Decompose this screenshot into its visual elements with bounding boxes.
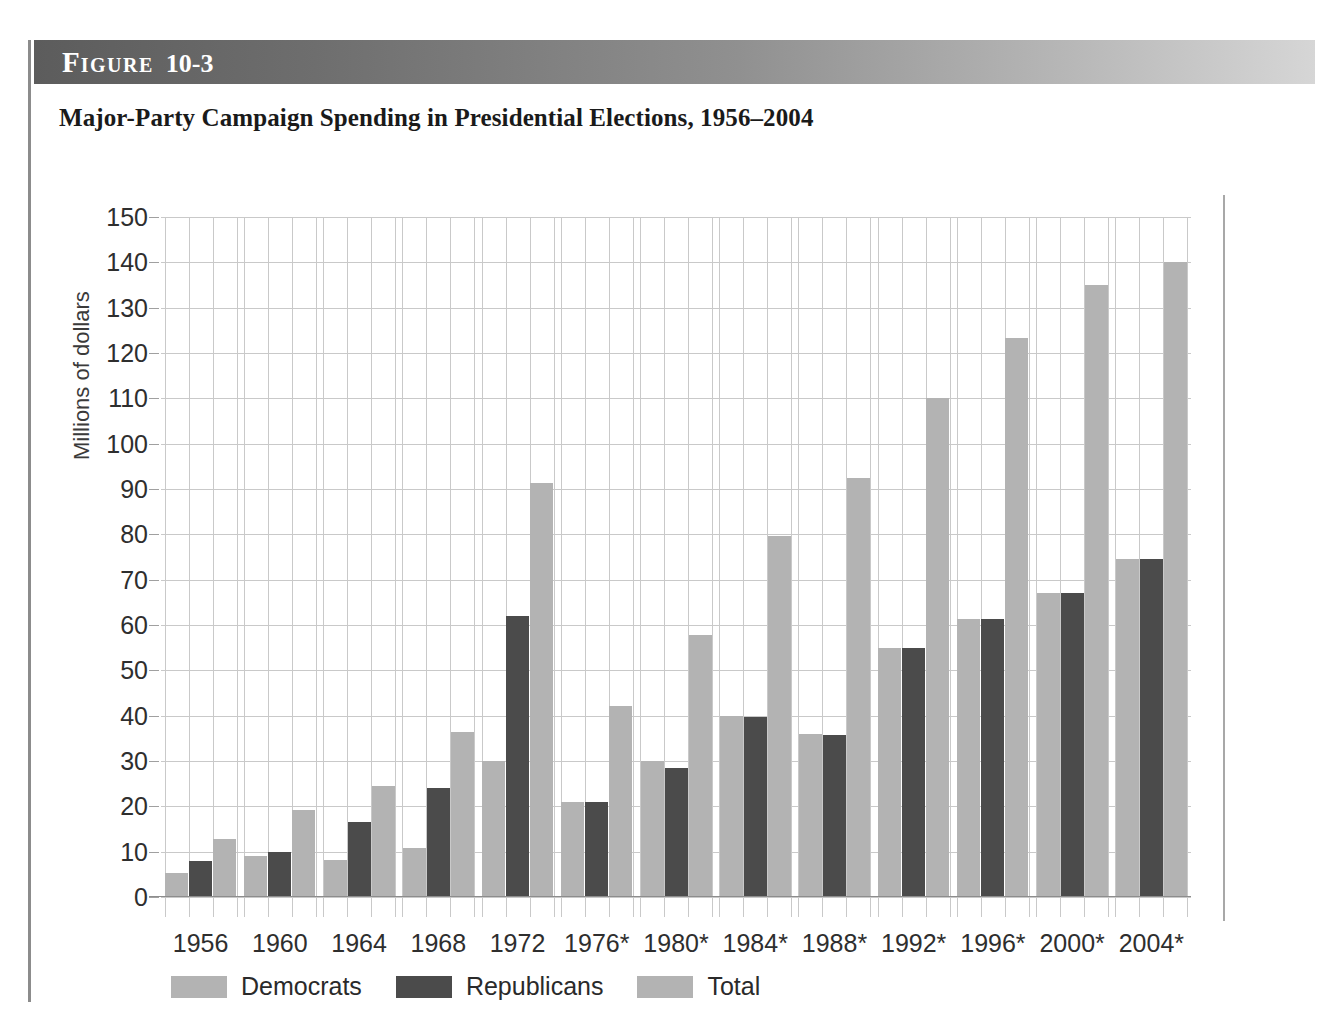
gridline-vertical	[395, 217, 396, 897]
x-axis-tick-mark	[585, 897, 586, 917]
figure-container: FIGURE10-3 Major-Party Campaign Spending…	[28, 40, 1312, 1002]
y-axis-tick-mark	[149, 716, 159, 717]
y-axis-tick-mark	[149, 398, 159, 399]
bar-group	[1037, 217, 1108, 897]
x-axis-tick-mark	[688, 897, 689, 917]
legend-label: Democrats	[241, 972, 362, 1001]
bar-democrats-1956	[165, 873, 188, 897]
x-axis-tick-mark	[1163, 897, 1164, 917]
x-axis-tick-mark	[244, 897, 245, 917]
x-axis-tick-label: 1972	[490, 929, 546, 958]
y-axis-tick-label: 20	[120, 792, 148, 821]
bar-total-1996star	[1005, 338, 1028, 897]
y-axis-tick-mark	[149, 580, 159, 581]
bar-democrats-1988star	[799, 734, 822, 897]
gridline-vertical	[554, 217, 555, 897]
bar-democrats-1980star	[641, 761, 664, 897]
legend-item-republicans[interactable]: Republicans	[396, 972, 604, 1001]
bar-democrats-1992star	[878, 648, 901, 897]
bar-group	[799, 217, 870, 897]
x-axis-tick-mark	[165, 897, 166, 917]
x-axis-tick-mark	[902, 897, 903, 917]
figure-title: Major-Party Campaign Spending in Preside…	[59, 104, 814, 132]
x-axis-tick-mark	[664, 897, 665, 917]
x-axis-tick-label: 2000*	[1039, 929, 1104, 958]
x-axis-tick-label: 1980*	[643, 929, 708, 958]
x-axis-tick-mark	[846, 897, 847, 917]
bar-group	[324, 217, 395, 897]
x-axis-tick-label: 1968	[410, 929, 466, 958]
y-axis-tick-label: 100	[106, 429, 148, 458]
bar-group	[482, 217, 553, 897]
y-axis-tick-mark	[149, 897, 159, 898]
bar-republicans-1972	[506, 616, 529, 897]
x-axis-tick-mark	[822, 897, 823, 917]
bar-republicans-1976star	[585, 802, 608, 897]
bar-democrats-1964	[324, 860, 347, 897]
gridline-vertical	[474, 217, 475, 897]
y-axis-tick-mark	[149, 308, 159, 309]
figure-number: 10-3	[166, 49, 214, 78]
y-axis-tick-label: 80	[120, 520, 148, 549]
x-axis-tick-mark	[1060, 897, 1061, 917]
x-axis-tick-mark	[371, 897, 372, 917]
x-axis-tick-mark	[402, 897, 403, 917]
gridline-vertical	[870, 217, 871, 897]
x-axis-tick-mark	[395, 897, 396, 917]
bar-group	[165, 217, 236, 897]
gridline-vertical	[633, 217, 634, 897]
legend-label: Total	[707, 972, 760, 1001]
y-axis-tick-mark	[149, 489, 159, 490]
x-axis-tick-mark	[1029, 897, 1030, 917]
figure-label-text: FIGURE	[62, 49, 154, 78]
x-axis-tick-mark	[633, 897, 634, 917]
bar-democrats-1972	[482, 761, 505, 897]
x-axis-tick-mark	[743, 897, 744, 917]
x-axis-tick-mark	[1084, 897, 1085, 917]
plot-area: 1501401301201101009080706050403020100195…	[161, 217, 1191, 897]
y-axis-tick-label: 10	[120, 837, 148, 866]
y-axis-tick-mark	[149, 625, 159, 626]
x-axis-tick-mark	[554, 897, 555, 917]
bar-group	[641, 217, 712, 897]
legend-item-total[interactable]: Total	[637, 972, 760, 1001]
x-axis-tick-mark	[474, 897, 475, 917]
x-axis-tick-mark	[561, 897, 562, 917]
y-axis-tick-label: 30	[120, 747, 148, 776]
bar-democrats-1996star	[957, 619, 980, 897]
bar-total-2004star	[1164, 262, 1187, 897]
x-axis-tick-mark	[292, 897, 293, 917]
bar-total-1960	[292, 810, 315, 897]
legend-item-democrats[interactable]: Democrats	[171, 972, 362, 1001]
x-axis-tick-label: 1996*	[960, 929, 1025, 958]
x-axis-tick-mark	[323, 897, 324, 917]
x-axis-tick-mark	[712, 897, 713, 917]
y-axis-tick-mark	[149, 806, 159, 807]
x-axis-tick-label: 1964	[331, 929, 387, 958]
y-axis-tick-mark	[149, 534, 159, 535]
chart-legend: DemocratsRepublicansTotal	[171, 972, 794, 1001]
bar-republicans-1996star	[981, 619, 1004, 897]
gridline-vertical	[316, 217, 317, 897]
bar-group	[720, 217, 791, 897]
bar-democrats-1968	[403, 848, 426, 897]
x-axis-tick-mark	[482, 897, 483, 917]
x-axis-tick-label: 1960	[252, 929, 308, 958]
y-axis-tick-mark	[149, 852, 159, 853]
bar-democrats-1976star	[561, 802, 584, 897]
x-axis-tick-mark	[237, 897, 238, 917]
bar-total-1956	[213, 839, 236, 897]
x-axis-tick-mark	[1108, 897, 1109, 917]
bar-total-2000star	[1085, 285, 1108, 897]
bar-group	[957, 217, 1028, 897]
bar-total-1988star	[847, 478, 870, 897]
x-axis-tick-mark	[1036, 897, 1037, 917]
bar-group	[403, 217, 474, 897]
x-axis-tick-label: 2004*	[1119, 929, 1184, 958]
legend-label: Republicans	[466, 972, 604, 1001]
y-axis-tick-label: 70	[120, 565, 148, 594]
x-axis-tick-mark	[1115, 897, 1116, 917]
x-axis-tick-mark	[609, 897, 610, 917]
gridline-vertical	[1029, 217, 1030, 897]
y-axis-tick-mark	[149, 670, 159, 671]
